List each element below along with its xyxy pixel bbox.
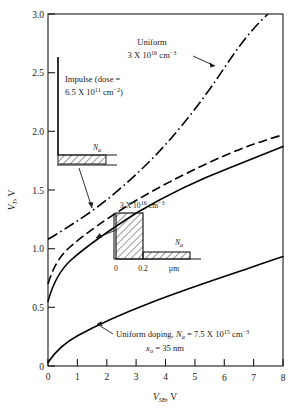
inset-impulse-na-band xyxy=(58,155,106,164)
x-tick-label: 4 xyxy=(163,372,168,382)
y-tick-label: 2.0 xyxy=(32,127,44,137)
y-tick-label: 0.5 xyxy=(32,303,44,313)
y-tick-label: 2.5 xyxy=(32,68,44,78)
inset-retrograde-x-unit: µm xyxy=(169,264,179,273)
x-tick-label: 5 xyxy=(193,372,198,382)
y-tick-label: 1.5 xyxy=(32,186,44,196)
x-tick-label: 3 xyxy=(134,372,139,382)
threshold-voltage-chart: 3.0 2.5 2.0 1.5 1.0 0.5 0 VT, V 0 1 2 3 … xyxy=(0,0,297,414)
y-tick-label: 0 xyxy=(39,362,44,372)
inset-retrograde-x-tick-02: 0.2 xyxy=(138,264,148,273)
inset-retrograde-x-tick-0: 0 xyxy=(114,264,118,273)
y-tick-label: 1.0 xyxy=(32,244,44,254)
y-axis-title: VT, V xyxy=(7,190,18,211)
y-axis-title-unit: , V xyxy=(7,190,17,202)
x-tick-label: 6 xyxy=(222,373,227,383)
x-tick-label: 0 xyxy=(46,372,51,382)
y-tick-label: 3.0 xyxy=(32,10,44,20)
x-tick-label: 7 xyxy=(251,373,256,383)
inset-retrograde-high-block xyxy=(116,213,143,259)
svg-text:VT, V: VT, V xyxy=(7,190,18,211)
inset-retrograde-low-band xyxy=(143,252,190,259)
annotation-uniform-line1: Uniform xyxy=(137,37,167,47)
x-axis-title-unit: , V xyxy=(166,392,178,402)
x-axis-title: VSB, V xyxy=(153,392,177,403)
x-tick-label: 8 xyxy=(281,373,286,383)
x-tick-label: 1 xyxy=(75,372,80,382)
x-tick-label: 2 xyxy=(104,372,109,382)
annotation-impulse-line1: Impulse (dose = xyxy=(65,74,121,84)
